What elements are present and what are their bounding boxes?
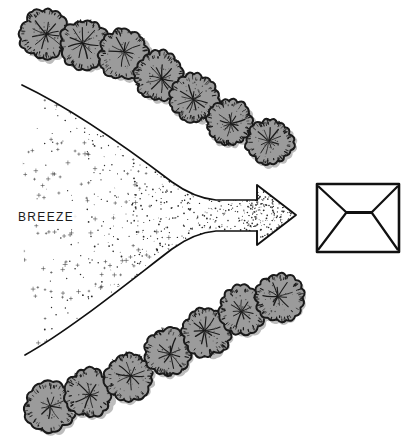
tree-speckle: [229, 117, 230, 118]
tree-speckle: [119, 378, 120, 379]
tree-speckle: [89, 48, 90, 49]
tree-speckle: [216, 338, 218, 340]
tree-speckle: [124, 55, 125, 56]
tree-speckle: [230, 131, 231, 132]
tree-speckle: [126, 53, 127, 54]
tree-speckle: [200, 340, 201, 341]
tree-speckle: [186, 86, 187, 87]
tree-speckle: [242, 313, 243, 314]
tree-speckle: [240, 123, 241, 124]
tree-speckle: [198, 107, 199, 108]
tree-speckle: [94, 53, 95, 54]
tree-speckle: [145, 378, 146, 379]
tree-speckle: [243, 309, 244, 310]
tree-speckle: [93, 38, 94, 39]
tree-speckle: [153, 65, 154, 66]
tree-speckle: [44, 22, 45, 23]
tree-speckle: [60, 394, 61, 395]
tree-speckle: [168, 353, 169, 354]
tree-speckle: [249, 306, 250, 307]
tree-speckle: [270, 143, 271, 144]
tree-speckle: [288, 294, 289, 295]
tree-speckle: [47, 27, 48, 28]
tree-speckle: [109, 59, 110, 60]
tree-speckle: [162, 350, 163, 351]
tree-speckle: [207, 332, 208, 333]
tree-speckle: [256, 315, 257, 316]
tree-speckle: [276, 306, 277, 307]
tree-speckle: [206, 345, 207, 346]
tree-speckle: [159, 82, 160, 83]
tree-speckle: [124, 390, 125, 391]
tree-speckle: [206, 331, 207, 332]
tree-speckle: [201, 111, 202, 112]
tree-speckle: [90, 384, 91, 385]
tree-speckle: [237, 304, 238, 305]
tree-speckle: [98, 385, 99, 386]
tree-speckle: [127, 68, 128, 69]
tree-speckle: [195, 99, 196, 100]
tree-speckle: [85, 396, 87, 398]
tree-speckle: [277, 141, 279, 143]
tree-speckle: [249, 315, 250, 316]
tree-speckle: [79, 32, 80, 33]
tree-speckle: [284, 310, 285, 311]
tree-speckle: [224, 130, 225, 131]
tree-speckle: [234, 305, 235, 306]
tree-speckle: [264, 144, 266, 146]
tree-speckle: [236, 297, 237, 298]
tree-speckle: [205, 90, 207, 92]
tree-symbol: [245, 119, 297, 169]
tree-speckle: [125, 52, 126, 53]
building-plan: [317, 184, 399, 252]
tree-speckle: [222, 124, 223, 125]
tree-speckle: [175, 358, 177, 360]
tree-speckle: [123, 52, 124, 53]
tree-speckle: [150, 83, 152, 85]
tree-speckle: [43, 26, 45, 28]
tree-speckle: [203, 106, 204, 107]
tree-speckle: [158, 76, 159, 77]
tree-speckle: [264, 292, 265, 293]
tree-speckle: [200, 319, 201, 320]
tree-speckle: [227, 124, 228, 125]
tree-speckle: [123, 42, 124, 43]
tree-speckle: [206, 334, 207, 335]
tree-speckle: [74, 33, 75, 34]
tree-speckle: [86, 392, 87, 393]
tree-speckle: [152, 74, 154, 76]
tree-speckle: [58, 405, 60, 407]
tree-speckle: [265, 156, 266, 157]
tree-speckle: [54, 411, 55, 412]
tree-speckle: [204, 331, 205, 332]
tree-speckle: [120, 388, 121, 389]
tree-speckle: [46, 408, 47, 409]
tree-speckle: [37, 40, 38, 41]
tree-speckle: [107, 53, 108, 54]
tree-speckle: [114, 372, 115, 373]
tree-speckle: [165, 355, 166, 356]
tree-speckle: [82, 403, 83, 404]
tree-speckle: [86, 382, 87, 383]
tree-speckle: [42, 403, 44, 405]
tree-speckle: [168, 347, 169, 348]
tree-speckle: [77, 385, 79, 387]
tree-speckle: [83, 40, 84, 41]
tree-speckle: [118, 375, 120, 377]
tree-speckle: [214, 336, 215, 337]
tree-speckle: [275, 140, 276, 141]
tree-speckle: [265, 299, 266, 300]
tree-speckle: [37, 35, 38, 36]
tree-speckle: [268, 293, 269, 294]
tree-speckle: [242, 118, 243, 119]
tree-speckle: [35, 21, 36, 22]
tree-speckle: [57, 37, 59, 39]
tree-speckle: [35, 30, 36, 31]
tree-speckle: [217, 123, 218, 124]
tree-speckle: [178, 347, 179, 348]
tree-speckle: [58, 400, 60, 402]
tree-speckle: [95, 48, 96, 49]
tree-speckle: [186, 90, 188, 92]
tree-speckle: [88, 384, 90, 386]
tree-speckle: [148, 81, 149, 82]
